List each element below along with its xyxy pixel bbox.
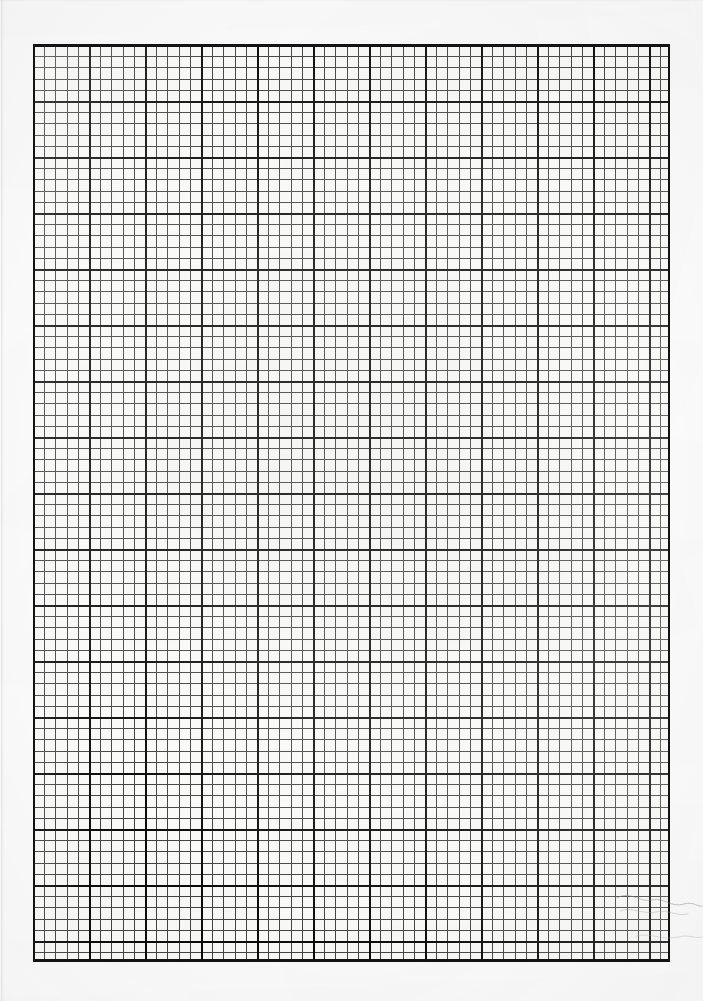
sheet-left-edge-shadow <box>1 0 4 1001</box>
graph-grid-area <box>33 45 670 962</box>
fine-grid-lines <box>33 45 670 962</box>
sheet-top-edge-shadow <box>0 0 703 2</box>
screenshot-root <box>0 0 703 1001</box>
paper-sheet <box>0 0 703 1001</box>
major-grid-lines <box>33 45 670 962</box>
